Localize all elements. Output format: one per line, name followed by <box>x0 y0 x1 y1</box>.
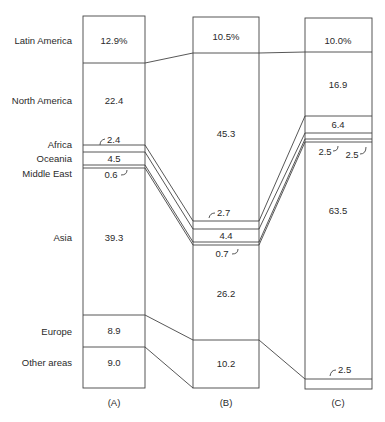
value-label: 6.4 <box>331 119 344 130</box>
value-label: 16.9 <box>329 79 348 90</box>
row-label: Oceania <box>37 153 73 164</box>
column-a-values: 12.9% 22.4 2.4 4.5 0.6 39.3 8.9 9.0 <box>100 35 128 368</box>
value-label: 45.3 <box>217 128 236 139</box>
callout-arrow-icon <box>100 139 105 145</box>
column-c-values: 10.0% 16.9 6.4 2.5 2.5 63.5 2.5 <box>318 35 366 376</box>
column-c <box>305 18 372 389</box>
value-label: 10.5% <box>213 31 240 42</box>
row-label: Latin America <box>14 35 72 46</box>
column-label-b: (B) <box>220 397 233 408</box>
value-label: 26.2 <box>217 288 236 299</box>
value-label: 12.9% <box>101 35 128 46</box>
value-label: 4.5 <box>107 153 120 164</box>
column-label-c: (C) <box>331 397 344 408</box>
callout-arrow-icon <box>209 213 215 218</box>
callout-arrow-icon <box>121 170 127 175</box>
connectors-a-b <box>145 53 193 388</box>
row-label: Europe <box>41 326 72 337</box>
callout-arrow-icon <box>330 370 336 376</box>
column-labels: (A) (B) (C) <box>108 397 345 408</box>
row-labels: Latin America North America Africa Ocean… <box>12 35 73 368</box>
row-label: Africa <box>48 139 73 150</box>
value-label: 63.5 <box>329 205 348 216</box>
callout-arrow-icon <box>333 146 338 151</box>
stacked-bar-chart: Latin America North America Africa Ocean… <box>0 0 385 422</box>
value-label: 22.4 <box>105 95 124 106</box>
value-label: 2.5 <box>338 364 351 375</box>
row-label: Other areas <box>22 357 72 368</box>
column-b <box>193 17 259 388</box>
column-b-values: 10.5% 45.3 2.7 4.4 0.7 26.2 10.2 <box>209 31 240 369</box>
value-label: 4.4 <box>219 230 232 241</box>
value-label: 2.5 <box>318 146 331 157</box>
column-label-a: (A) <box>108 397 121 408</box>
row-label: North America <box>12 95 73 106</box>
row-label: Middle East <box>22 168 72 179</box>
callout-arrow-icon <box>360 147 366 154</box>
row-label: Asia <box>54 232 73 243</box>
value-label: 2.4 <box>107 134 120 145</box>
connectors-b-c <box>259 52 305 379</box>
value-label: 39.3 <box>105 232 124 243</box>
value-label: 9.0 <box>107 357 120 368</box>
value-label: 2.7 <box>217 207 230 218</box>
value-label: 10.2 <box>217 358 236 369</box>
value-label: 0.7 <box>215 248 228 259</box>
value-label: 8.9 <box>107 325 120 336</box>
value-label: 10.0% <box>325 35 352 46</box>
value-label: 0.6 <box>104 169 117 180</box>
value-label: 2.5 <box>345 149 358 160</box>
callout-arrow-icon <box>232 249 238 254</box>
